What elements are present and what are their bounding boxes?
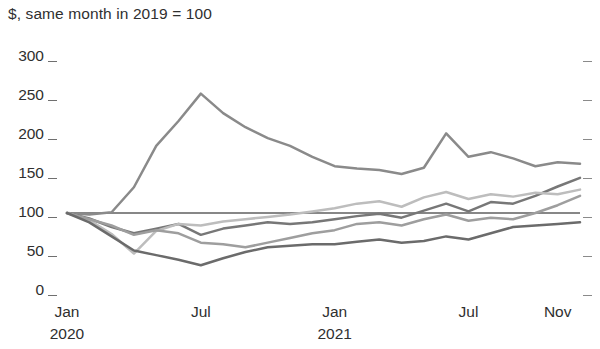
series-line-2 xyxy=(67,178,580,235)
plot-area xyxy=(0,0,600,349)
line-chart: $, same month in 2019 = 100 050100150200… xyxy=(0,0,600,349)
